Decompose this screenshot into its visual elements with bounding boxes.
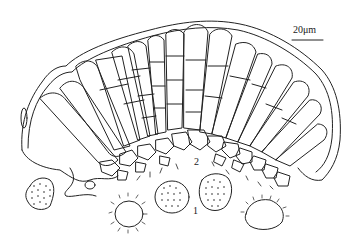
ascospore-3	[155, 181, 189, 213]
illustration-canvas	[0, 0, 363, 243]
label-spores: 1	[193, 205, 198, 216]
ascospore-4	[199, 174, 231, 211]
ascospore-1	[26, 178, 54, 209]
small-cell	[85, 181, 95, 189]
asci-group	[40, 25, 327, 167]
margin-cell	[21, 108, 27, 128]
excipulum-hairs	[137, 162, 273, 189]
left-lobe-inner	[65, 168, 96, 196]
ascospore-2	[109, 193, 147, 233]
label-hymenium: 2	[194, 156, 199, 167]
scale-bar-label: 20μm	[293, 24, 316, 35]
scientific-illustration: 20μm 2 1	[0, 0, 363, 243]
ascospore-5	[241, 195, 289, 229]
